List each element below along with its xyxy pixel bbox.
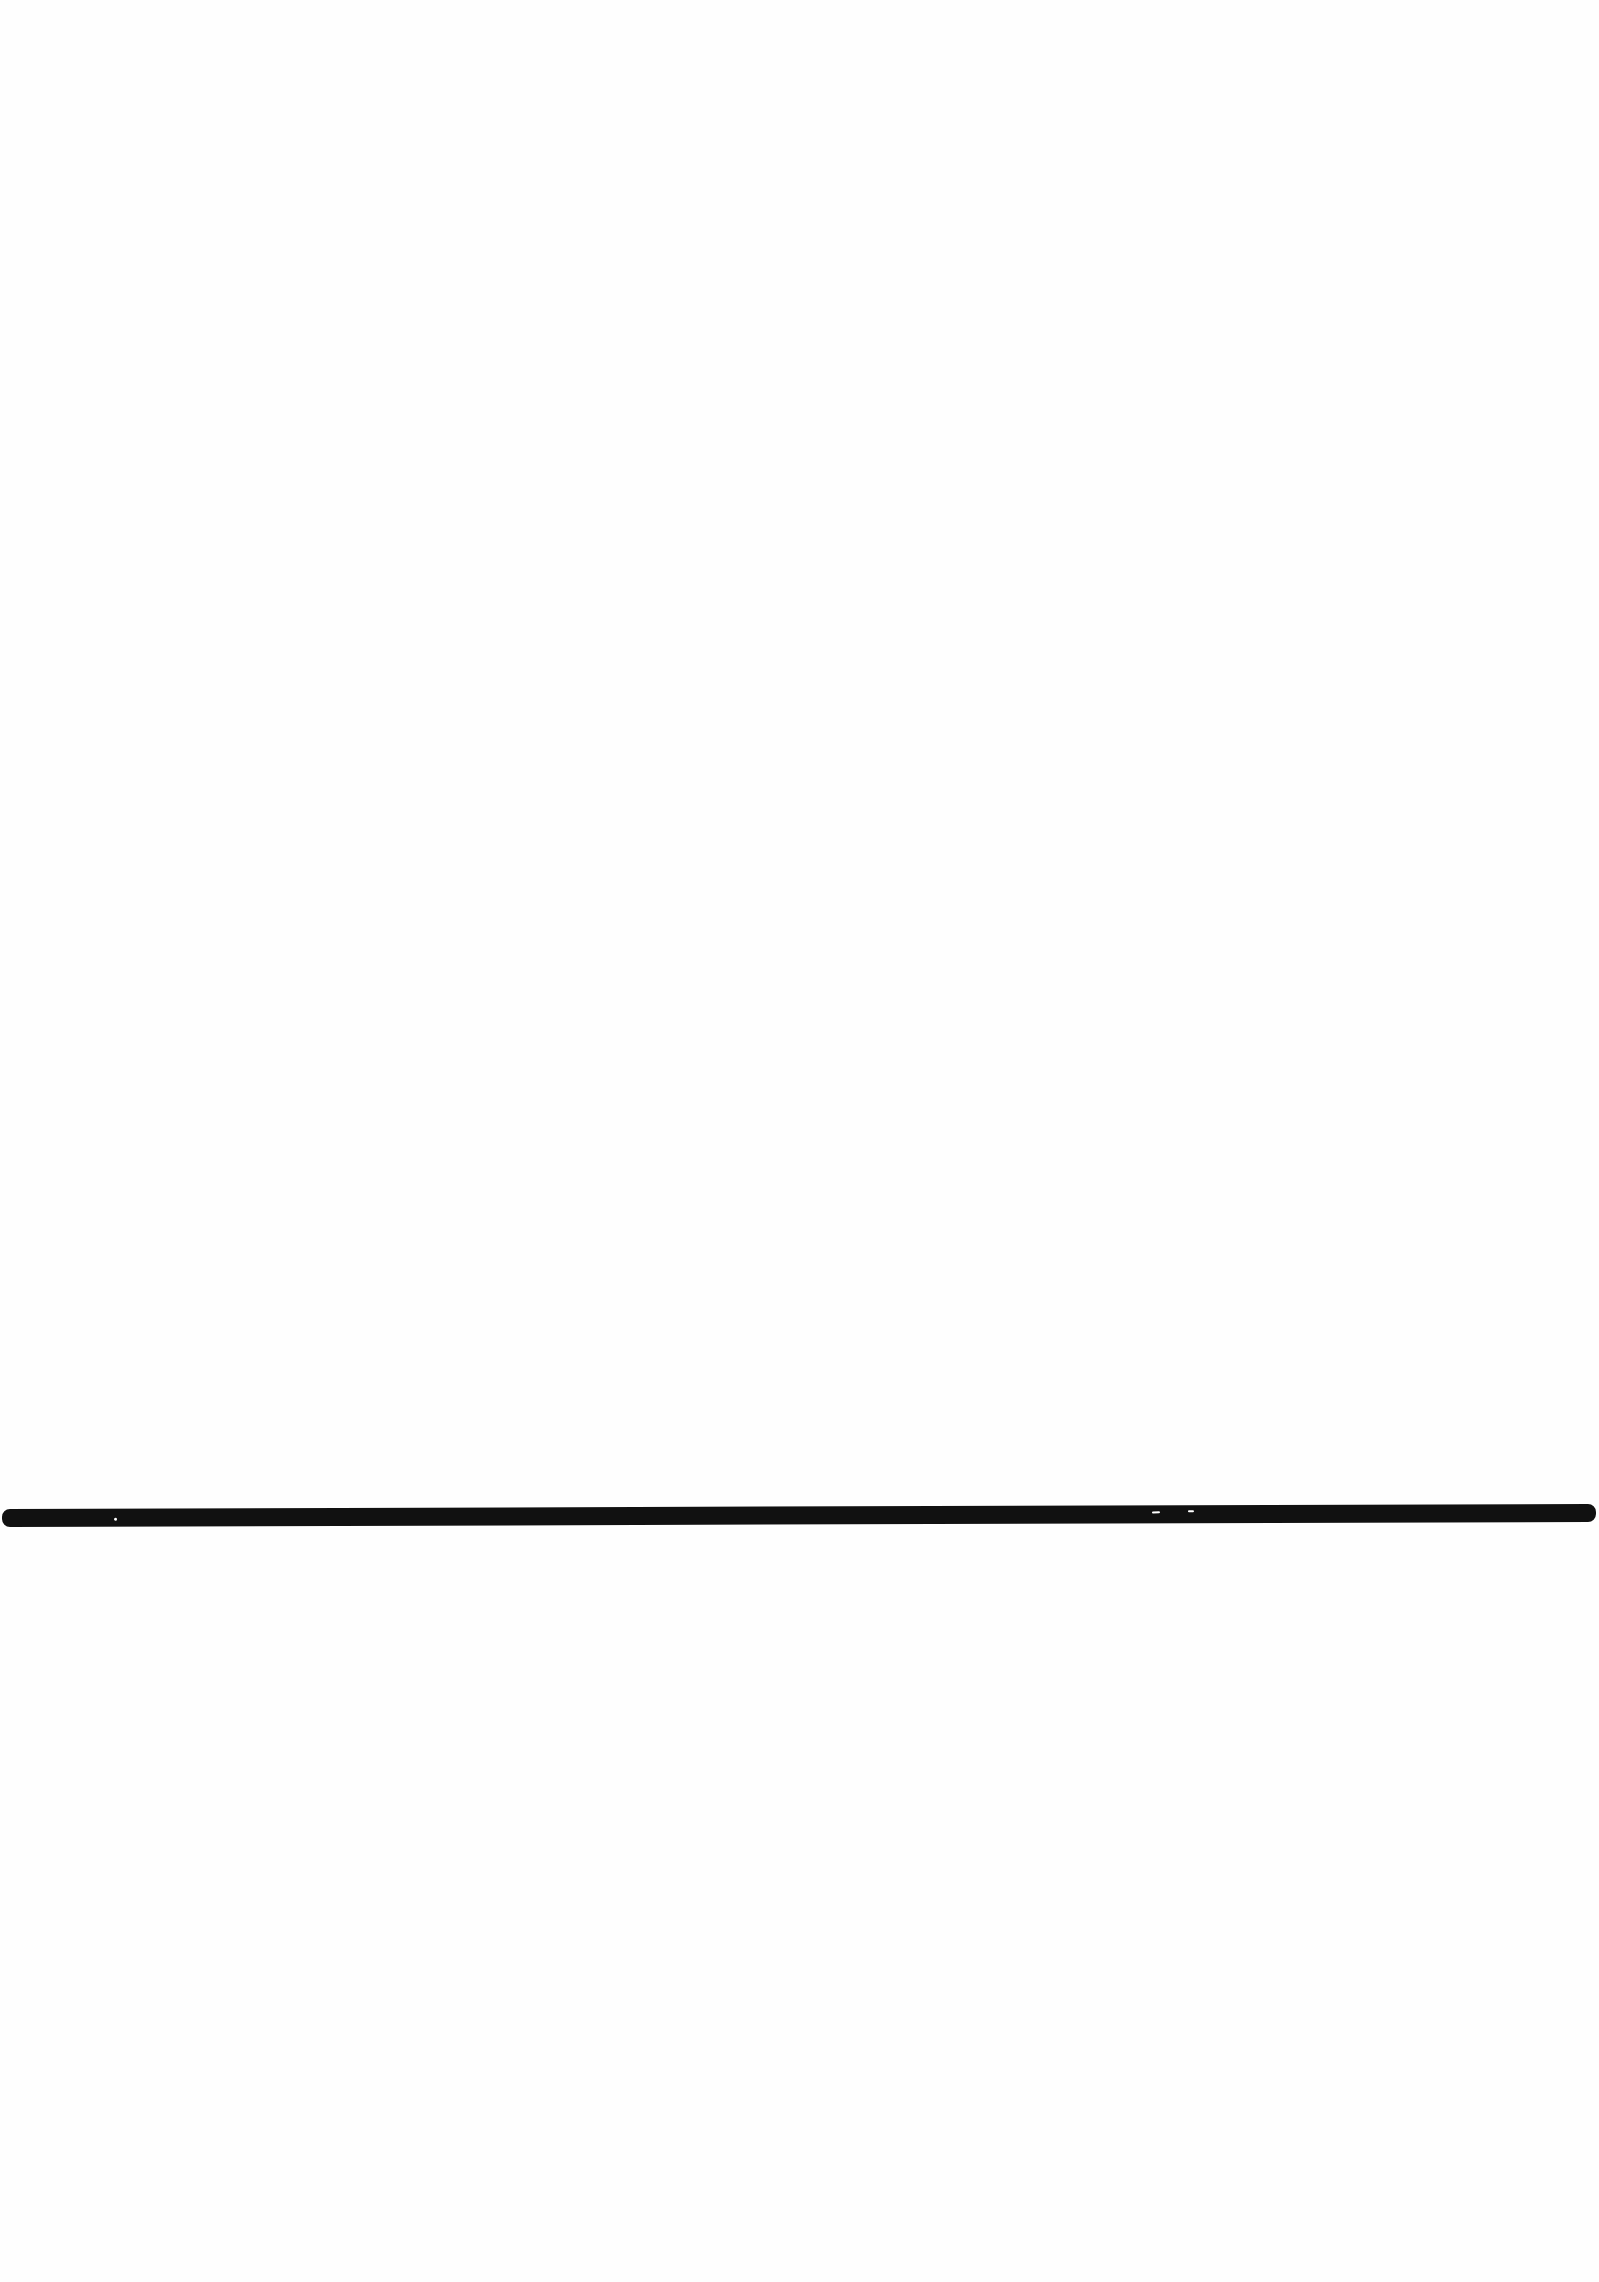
blank-page	[0, 0, 1599, 2282]
horizontal-rule	[2, 1504, 1596, 1527]
scan-speck	[114, 1518, 117, 1521]
scan-speck	[1188, 1510, 1194, 1512]
scan-speck	[1152, 1511, 1160, 1513]
